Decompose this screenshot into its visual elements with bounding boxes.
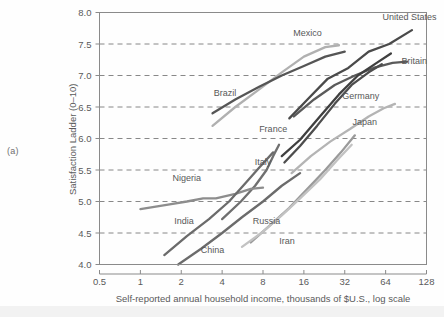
gridlines-group: [100, 44, 427, 233]
x-tick-label: 4: [219, 276, 224, 287]
bottom-strip: [0, 306, 444, 317]
x-tick-label: 1: [138, 276, 143, 287]
series-lines-group: [140, 30, 412, 264]
series-label-china: China: [201, 245, 225, 255]
series-line-russia: [251, 135, 355, 242]
series-line-britain: [294, 62, 407, 117]
x-tick-label: 128: [419, 276, 435, 287]
y-tick-label: 6.0: [78, 133, 91, 144]
x-tick-label: 2: [179, 276, 184, 287]
series-label-russia: Russia: [253, 216, 281, 226]
series-label-germany: Germany: [342, 91, 380, 101]
x-axis-ticks-group: 0.51248163264128: [93, 270, 435, 287]
y-tick-label: 4.0: [78, 259, 91, 270]
y-tick-label: 5.0: [78, 196, 91, 207]
series-label-iran: Iran: [279, 236, 295, 246]
y-tick-label: 5.5: [78, 165, 91, 176]
series-label-japan: Japan: [353, 117, 378, 127]
series-line-china: [178, 173, 300, 264]
x-tick-label: 8: [260, 276, 265, 287]
series-label-india: India: [174, 216, 194, 226]
y-tick-label: 4.5: [78, 228, 91, 239]
x-tick-label: 64: [380, 276, 391, 287]
figure-container: (a) 0.51248163264128 4.04.55.05.56.06.57…: [0, 0, 444, 317]
series-label-brazil: Brazil: [214, 88, 237, 98]
y-tick-label: 7.5: [78, 39, 91, 50]
y-axis-title: Satisfaction Ladder (0–10): [67, 84, 78, 195]
series-label-nigeria: Nigeria: [173, 173, 202, 183]
series-label-united-states: United States: [383, 12, 438, 22]
series-label-mexico: Mexico: [293, 28, 322, 38]
satisfaction-income-chart: 0.51248163264128 4.04.55.05.56.06.57.07.…: [0, 0, 444, 317]
y-tick-label: 7.0: [78, 70, 91, 81]
x-tick-label: 0.5: [93, 276, 106, 287]
y-axis-ticks-group: 4.04.55.05.56.06.57.07.58.0: [78, 7, 99, 270]
y-tick-label: 6.5: [78, 102, 91, 113]
x-tick-label: 16: [299, 276, 310, 287]
x-axis-title: Self-reported annual household income, t…: [116, 293, 411, 304]
series-label-france: France: [259, 124, 287, 134]
series-label-britain: Britain: [401, 56, 427, 66]
y-tick-label: 8.0: [78, 7, 91, 18]
x-tick-label: 32: [339, 276, 350, 287]
series-label-italy: Italy: [255, 157, 272, 167]
